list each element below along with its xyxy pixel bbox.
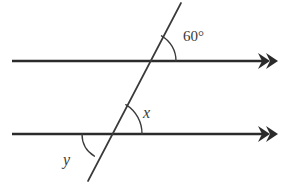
transversal-line: [88, 3, 181, 181]
angle-arc-x: [126, 105, 142, 134]
geometry-canvas: 60° x y: [0, 0, 286, 185]
angle-arc-y: [82, 134, 94, 156]
angle-label-y: y: [61, 151, 71, 169]
upper-parallel-line-group: [12, 53, 278, 69]
angle-arc-60: [162, 36, 177, 61]
angle-label-60: 60°: [183, 28, 204, 44]
angle-label-x: x: [142, 104, 150, 121]
lower-parallel-line-group: [12, 126, 278, 142]
geometry-diagram: 60° x y: [0, 0, 286, 185]
